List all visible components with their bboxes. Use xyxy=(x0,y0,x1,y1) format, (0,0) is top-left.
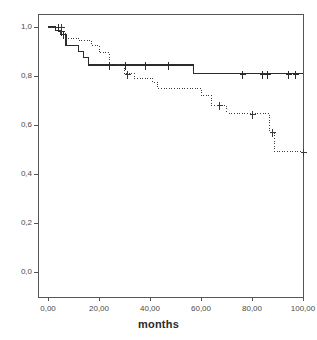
y-tick-label: 0,0 xyxy=(6,267,32,276)
y-tick-label: 0,8 xyxy=(6,71,32,80)
survival-curves xyxy=(48,27,303,152)
plot-canvas xyxy=(0,0,317,340)
x-tick-label: 20,00 xyxy=(89,304,109,313)
y-tick-label: 0,6 xyxy=(6,120,32,129)
y-tick-label: 0,2 xyxy=(6,218,32,227)
y-tick-label: 1,0 xyxy=(6,22,32,31)
plot-frame xyxy=(39,15,304,298)
x-tick-label: 100,00 xyxy=(291,304,315,313)
censor-marks xyxy=(56,24,307,157)
x-tick-label: 80,00 xyxy=(242,304,262,313)
x-tick-label: 60,00 xyxy=(191,304,211,313)
y-tick-label: 0,4 xyxy=(6,169,32,178)
kaplan-meier-chart: 1,00,80,60,40,20,0 0,0020,0040,0060,0080… xyxy=(0,0,317,340)
x-axis-title: months xyxy=(0,318,317,330)
x-tick-label: 40,00 xyxy=(140,304,160,313)
x-tick-label: 0,00 xyxy=(40,304,56,313)
